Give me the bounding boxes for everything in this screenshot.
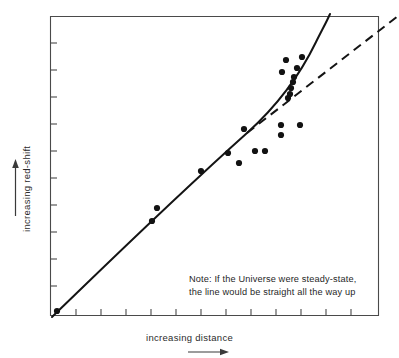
- data-point: [241, 126, 247, 132]
- data-point: [149, 218, 155, 224]
- x-axis-label-group: increasing distance: [146, 332, 233, 355]
- data-point: [297, 122, 303, 128]
- chart-annotation-note: Note: If the Universe were steady-state,…: [189, 274, 356, 297]
- data-point: [287, 91, 293, 97]
- data-point: [283, 57, 289, 63]
- y-axis-arrow-icon: [12, 159, 19, 216]
- data-point: [278, 122, 284, 128]
- y-axis-label-group: increasing red-shift: [12, 146, 32, 232]
- data-point: [278, 132, 284, 138]
- data-point: [294, 65, 300, 71]
- hubble-diagram-figure: increasing red-shift increasing distance…: [0, 0, 399, 358]
- y-axis-ticks: [51, 43, 58, 286]
- steady-state-dashed-line: [247, 16, 398, 133]
- x-axis-arrow-icon: [188, 349, 229, 355]
- data-point: [154, 205, 160, 211]
- data-point: [236, 160, 242, 166]
- y-axis-label: increasing red-shift: [21, 146, 32, 232]
- data-point: [198, 168, 204, 174]
- data-point: [252, 148, 258, 154]
- annotation-line-2: the line would be straight all the way u…: [189, 287, 356, 297]
- data-point: [279, 69, 285, 75]
- chart-canvas: increasing red-shift increasing distance…: [0, 0, 399, 358]
- annotation-line-1: Note: If the Universe were steady-state,: [189, 274, 356, 284]
- x-axis-label: increasing distance: [146, 332, 233, 343]
- data-point: [291, 74, 297, 80]
- data-point: [299, 54, 305, 60]
- x-axis-ticks: [76, 309, 351, 316]
- data-point: [262, 148, 268, 154]
- data-point: [288, 85, 294, 91]
- data-point: [225, 150, 231, 156]
- data-point: [54, 308, 60, 314]
